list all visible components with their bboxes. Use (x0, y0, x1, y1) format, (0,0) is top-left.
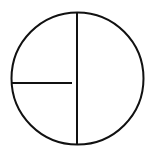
circle-diagram (0, 0, 153, 155)
